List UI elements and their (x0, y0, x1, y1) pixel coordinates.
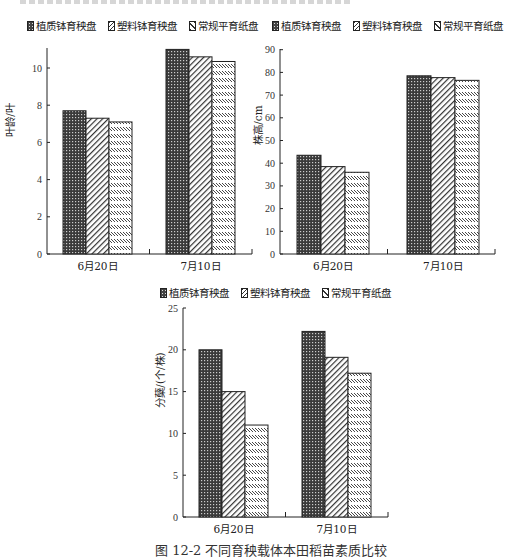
svg-text:6月20日: 6月20日 (213, 523, 253, 535)
bar (245, 425, 268, 517)
svg-text:25: 25 (168, 303, 178, 314)
svg-text:20: 20 (168, 344, 178, 355)
bar (325, 357, 348, 517)
bar (199, 350, 222, 517)
bar (302, 331, 325, 517)
svg-text:分蘖/(个/株): 分蘖/(个/株) (154, 352, 166, 407)
bar (222, 392, 245, 517)
figure-caption: 图 12-2 不同育秧载体本田稻苗素质比较 (155, 540, 387, 559)
svg-text:0: 0 (173, 512, 178, 523)
svg-text:5: 5 (173, 470, 178, 481)
svg-text:7月10日: 7月10日 (316, 523, 356, 535)
svg-text:15: 15 (168, 386, 178, 397)
bar (348, 373, 371, 517)
svg-text:10: 10 (168, 428, 178, 439)
